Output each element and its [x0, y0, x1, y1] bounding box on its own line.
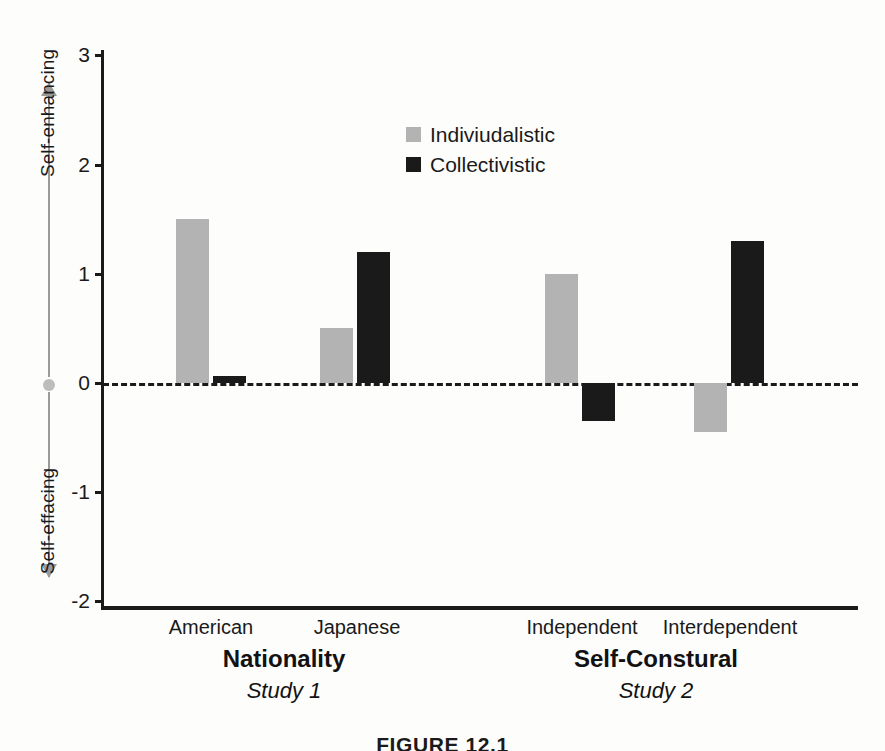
- bar-independent-collectivistic: [582, 383, 615, 421]
- bar-interdependent-collectivistic: [731, 241, 764, 383]
- category-label-japanese: Japanese: [247, 616, 467, 639]
- group-title-nationality: Nationality: [134, 645, 434, 673]
- category-label-interdependent: Interdependent: [620, 616, 840, 639]
- bar-japanese-individualistic: [320, 328, 353, 383]
- group-subtitle-study-1: Study 1: [134, 678, 434, 704]
- figure-caption: FIGURE 12.1: [0, 733, 885, 751]
- bar-interdependent-individualistic: [694, 383, 727, 432]
- bar-independent-individualistic: [545, 274, 578, 383]
- bar-american-collectivistic: [213, 376, 246, 383]
- group-subtitle-study-2: Study 2: [506, 678, 806, 704]
- group-title-self-constural: Self-Constural: [506, 645, 806, 673]
- bar-japanese-collectivistic: [357, 252, 390, 383]
- bar-american-individualistic: [176, 219, 209, 383]
- figure-container: Self-enhancing Self-effacing 3210-1-2 In…: [0, 0, 885, 751]
